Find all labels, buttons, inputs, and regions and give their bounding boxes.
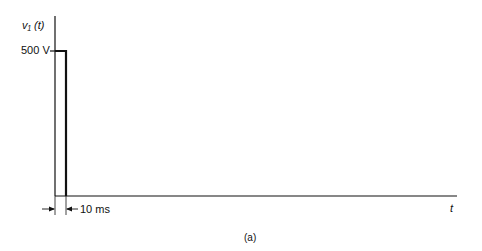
x-axis-label: t [450,202,453,214]
pulse-waveform [55,51,66,196]
figure-caption: (a) [244,232,256,243]
pulse-diagram [0,0,482,251]
pulse-width-label: 10 ms [80,203,110,215]
y-axis-label: v₁ (t) [22,19,44,31]
arrowhead-right-icon [49,207,55,212]
y-tick-label: 500 V [21,44,50,56]
arrowhead-left-icon [66,207,72,212]
